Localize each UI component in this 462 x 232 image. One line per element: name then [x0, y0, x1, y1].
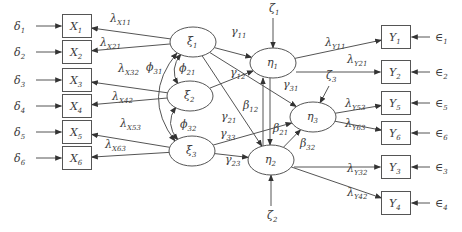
loading-label-y32: λY32: [346, 162, 368, 177]
loading-label-x11: λX11: [109, 12, 131, 27]
error-label-epsilon5: ∈5: [435, 97, 448, 112]
loading-label-y21: λY21: [346, 53, 368, 68]
covariance-label-phi31: ϕ31: [146, 61, 162, 76]
gamma-label-21: γ21: [221, 110, 237, 125]
error-label-delta4: δ4: [14, 100, 25, 115]
gamma-label-31: γ31: [283, 78, 299, 93]
disturbance-label-zeta1: ζ1: [269, 2, 279, 17]
gamma-arrow-11: [214, 48, 251, 58]
loading-label-x42: λX42: [111, 90, 133, 105]
gamma-label-12: γ12: [230, 66, 246, 81]
error-label-epsilon4: ∈4: [435, 197, 448, 212]
loading-label-y42: λY42: [346, 186, 368, 201]
loading-label-x21: λX21: [99, 36, 121, 51]
gamma-label-33: γ33: [220, 127, 236, 142]
error-label-delta6: δ6: [14, 152, 26, 167]
gamma-label-11: γ11: [231, 25, 247, 40]
error-label-delta2: δ2: [14, 46, 26, 61]
error-label-delta5: δ5: [14, 126, 26, 141]
loading-label-x32: λX32: [117, 62, 139, 77]
error-label-epsilon3: ∈3: [435, 161, 448, 176]
loading-arrow-y42: [291, 167, 381, 198]
covariance-arc-phi32: [170, 107, 178, 140]
loading-arrow-x53: [92, 134, 170, 147]
disturbance-label-zeta2: ζ2: [267, 209, 278, 224]
loading-label-x53: λX53: [119, 117, 141, 132]
disturbance-label-zeta3: ζ3: [326, 69, 337, 84]
error-label-epsilon2: ∈2: [435, 66, 448, 81]
edges-layer: [36, 18, 430, 206]
error-label-epsilon6: ∈6: [435, 127, 448, 142]
error-label-delta1: δ1: [14, 20, 25, 35]
loading-label-y11: λY11: [324, 36, 346, 51]
loading-label-x63: λX63: [104, 138, 126, 153]
error-label-delta3: δ3: [14, 74, 26, 89]
loading-label-y53: λY53: [344, 97, 366, 112]
error-label-epsilon1: ∈1: [435, 31, 448, 46]
sem-path-diagram: X1δ1X2δ2X3δ3X4δ4X5δ5X6δ6Y1∈1Y2∈2Y5∈5Y6∈6…: [0, 0, 462, 232]
beta-label-12: β12: [242, 99, 259, 114]
loading-label-y63: λY63: [344, 117, 366, 132]
loading-arrow-x32: [92, 82, 168, 93]
beta-label-32: β32: [299, 137, 316, 152]
covariance-label-phi21: ϕ21: [179, 62, 195, 77]
covariance-label-phi32: ϕ32: [180, 118, 197, 133]
disturbance-arrow-zeta3: [320, 86, 329, 103]
loading-arrow-x63: [92, 152, 170, 157]
